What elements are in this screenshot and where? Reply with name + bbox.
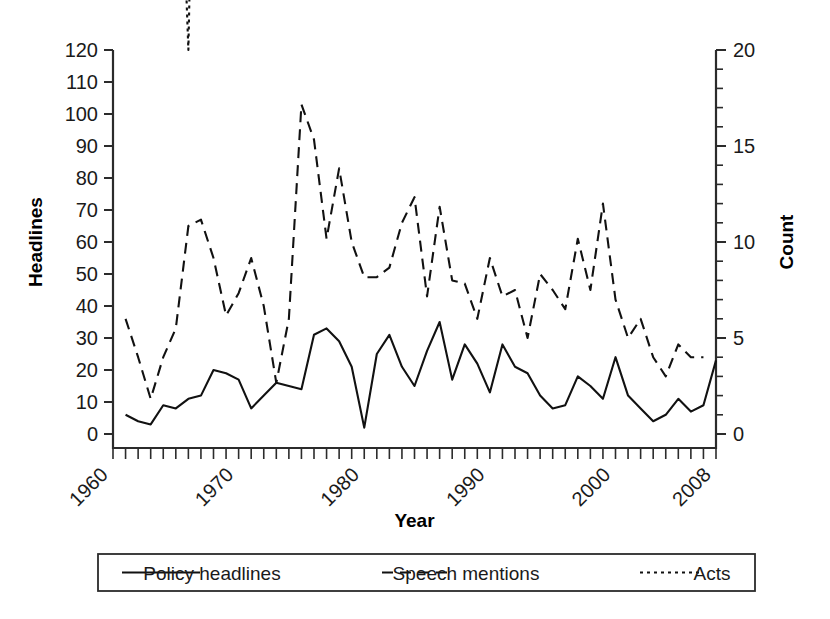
x-tick-label: 1960 xyxy=(65,463,112,510)
x-tick-label: 1980 xyxy=(316,463,363,510)
y-tick-label-left: 50 xyxy=(76,263,98,285)
chart-canvas: 0102030405060708090100110120051015201960… xyxy=(0,0,830,619)
y-tick-label-left: 0 xyxy=(87,423,98,445)
series-line-speech-mentions xyxy=(126,104,704,398)
y-axis-title-left: Headlines xyxy=(25,197,46,287)
y-tick-label-left: 120 xyxy=(65,39,98,61)
series-line-policy-headlines xyxy=(126,322,716,428)
y-tick-label-right: 20 xyxy=(733,39,755,61)
y-tick-label-left: 90 xyxy=(76,135,98,157)
y-tick-label-right: 5 xyxy=(733,327,744,349)
y-tick-label-left: 30 xyxy=(76,327,98,349)
x-tick-label: 1990 xyxy=(442,463,489,510)
y-tick-label-left: 20 xyxy=(76,359,98,381)
y-tick-label-left: 100 xyxy=(65,103,98,125)
x-tick-label: 1970 xyxy=(190,463,237,510)
y-tick-label-right: 10 xyxy=(733,231,755,253)
y-tick-label-left: 110 xyxy=(66,71,98,93)
y-tick-label-left: 10 xyxy=(76,391,98,413)
legend-label-1: Speech mentions xyxy=(393,563,540,584)
y-tick-label-left: 70 xyxy=(76,199,98,221)
y-tick-label-left: 40 xyxy=(76,295,98,317)
y-axis-title-right: Count xyxy=(776,214,797,270)
x-axis-title: Year xyxy=(394,510,435,531)
y-tick-label-right: 0 xyxy=(733,423,744,445)
chart-figure: 0102030405060708090100110120051015201960… xyxy=(0,0,830,619)
y-tick-label-left: 80 xyxy=(76,167,98,189)
y-tick-label-right: 15 xyxy=(733,135,755,157)
legend-label-2: Acts xyxy=(694,563,731,584)
legend-label-0: Policy headlines xyxy=(143,563,280,584)
x-tick-label: 2000 xyxy=(567,463,614,510)
series-line-acts xyxy=(126,0,704,50)
x-tick-label: 2008 xyxy=(668,463,715,510)
y-tick-label-left: 60 xyxy=(76,231,98,253)
